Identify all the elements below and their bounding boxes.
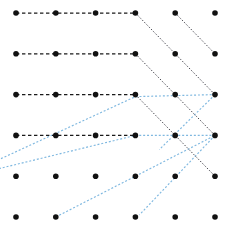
blue-chevron-mid [0,135,215,174]
grid-dot-r4-c4 [133,133,139,139]
grid-dot-r2-c1 [13,51,19,57]
black-diag-from-r1c5 [175,13,215,54]
grid-dot-r3-c4 [133,92,139,98]
blue-path-group [0,95,215,217]
blue-edge-right-upper [159,95,215,150]
black-horizontal-group [16,13,135,135]
grid-dot-r3-c6 [212,92,218,98]
grid-dot-r3-c5 [172,92,178,98]
grid-dot-r1-c3 [93,10,99,16]
grid-dot-r6-c4 [133,214,139,220]
grid-dot-r2-c5 [172,51,178,57]
grid-dot-r2-c4 [133,51,139,57]
dot-grid-group [13,10,218,220]
grid-dot-r4-c5 [172,133,178,139]
grid-dot-r5-c5 [172,173,178,179]
grid-dot-r6-c6 [212,214,218,220]
grid-dot-r6-c3 [93,214,99,220]
diagram-canvas [0,0,233,235]
grid-dot-r6-c1 [13,214,19,220]
grid-dot-r2-c2 [53,51,59,57]
grid-dot-r5-c6 [212,173,218,179]
grid-dot-r3-c3 [93,92,99,98]
grid-dot-r3-c1 [13,92,19,98]
grid-dot-r4-c3 [93,133,99,139]
grid-dot-r4-c1 [13,133,19,139]
grid-dot-r1-c5 [172,10,178,16]
grid-dot-r3-c2 [53,92,59,98]
grid-dot-r4-c2 [53,133,59,139]
grid-dot-r6-c5 [172,214,178,220]
blue-chevron-upper [0,95,215,170]
grid-dot-r5-c2 [53,173,59,179]
grid-dot-r5-c1 [13,173,19,179]
grid-dot-r1-c4 [133,10,139,16]
grid-dot-r1-c2 [53,10,59,16]
grid-dot-r2-c3 [93,51,99,57]
diagram-svg [0,0,233,235]
grid-dot-r2-c6 [212,51,218,57]
grid-dot-r6-c2 [53,214,59,220]
grid-dot-r1-c6 [212,10,218,16]
grid-dot-r4-c6 [212,133,218,139]
grid-dot-r5-c3 [93,173,99,179]
grid-dot-r5-c4 [133,173,139,179]
grid-dot-r1-c1 [13,10,19,16]
